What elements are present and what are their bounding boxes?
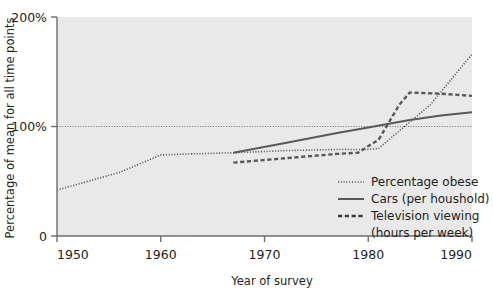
line-chart: 19501960197019801990 0100%200% Year of s… [0,0,493,289]
chart-figure: 19501960197019801990 0100%200% Year of s… [0,0,493,289]
legend-label-1: Cars (per houshold) [371,192,490,206]
x-axis-title: Year of survey [230,274,313,288]
legend-label-0: Percentage obese [371,175,478,189]
x-tick-label: 1960 [145,247,177,262]
x-tick-labels: 19501960197019801990 [57,247,472,262]
legend-label-2: Television viewing [370,209,479,223]
y-tick-label: 0 [39,229,47,244]
legend-label-3: (hours per week) [371,226,473,240]
y-tick-group [51,17,57,236]
x-tick-label: 1990 [440,247,472,262]
x-tick-label: 1980 [352,247,384,262]
x-tick-label: 1950 [57,247,89,262]
x-tick-label: 1970 [249,247,281,262]
y-axis-title: Percentage of mean for all time points [3,18,17,239]
